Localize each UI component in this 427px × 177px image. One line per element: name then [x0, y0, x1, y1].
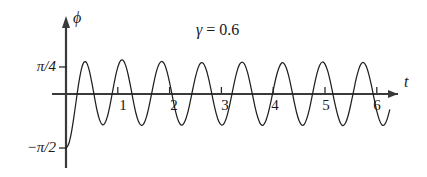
x-tick-label-2: 2	[165, 98, 183, 113]
y-axis-arrowhead	[62, 16, 70, 28]
x-axis-label-t: t	[404, 74, 408, 90]
x-axis-arrowhead	[388, 90, 398, 98]
gamma-value: 0.6	[219, 21, 239, 38]
y-tick-label-pi-over-4: π/4	[14, 59, 56, 74]
x-tick-label-4: 4	[266, 98, 284, 113]
gamma-annotation: γ = 0.6	[196, 22, 239, 38]
x-tick-label-1: 1	[114, 98, 132, 113]
gamma-equals: =	[202, 21, 219, 38]
y-axis-label-phi: ϕ	[73, 10, 81, 26]
x-tick-label-6: 6	[368, 98, 386, 113]
phase-plot-figure: π/4 −π/2 1 2 3 4 5 6 ϕ t γ = 0.6	[0, 0, 427, 177]
axes-group	[52, 16, 398, 168]
x-tick-label-3: 3	[216, 98, 234, 113]
x-tick-marks	[118, 87, 377, 93]
y-tick-label-minus-pi-over-2: −π/2	[6, 140, 56, 155]
x-tick-label-5: 5	[317, 98, 335, 113]
